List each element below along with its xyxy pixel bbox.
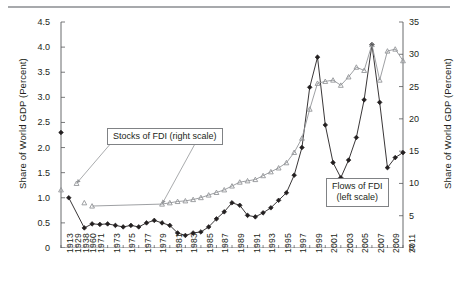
right-axis-tick-label: 25 [409,82,435,92]
data-point-marker [59,130,64,135]
data-point-marker [82,226,87,231]
data-point-marker [144,221,149,226]
data-point-marker [354,135,359,140]
left-axis-tick-label: 0.5 [24,218,50,228]
data-point-marker [261,211,266,216]
data-point-marker [253,215,258,220]
right-axis-tick-label: 10 [409,178,435,188]
data-point-marker [199,230,204,235]
left-axis-tick-label: 3.0 [24,92,50,102]
annotation-leader-line [77,142,112,183]
data-point-marker [323,123,328,128]
data-point-marker [160,221,165,226]
data-point-marker [307,85,312,90]
data-point-marker [315,55,320,60]
left-axis-tick-label: 1.5 [24,168,50,178]
right-axis-tick-label: 5 [409,211,435,221]
data-point-marker [129,223,134,228]
data-point-marker [66,195,71,200]
data-point-marker [362,98,367,103]
left-axis-tick-label: 4.0 [24,42,50,52]
right-axis-tick-label: 20 [409,114,435,124]
left-axis-tick-label: 0 [24,243,50,253]
data-point-marker [90,222,95,227]
data-point-marker [121,225,126,230]
data-point-marker [105,222,110,227]
figure-chart-fdi: Share of World GDP (Percent) Share of Wo… [0,0,458,294]
data-point-marker [98,222,103,227]
annotation-stocks-of-fdi: Stocks of FDI (right scale) [107,128,223,145]
data-point-marker [191,231,196,236]
data-point-marker [136,225,141,230]
data-point-marker [300,145,305,150]
data-point-marker [82,200,87,204]
data-point-marker [152,218,157,223]
annotation-flows-line2: (left scale) [332,192,383,203]
left-axis-tick-label: 4.5 [24,17,50,27]
left-axis-tick-label: 2.5 [24,117,50,127]
right-axis-title: Share of World GDP (Percent) [442,49,453,199]
data-point-marker [377,100,382,105]
top-divider-rule [8,6,450,8]
annotation-flows-line1: Flows of FDI [332,181,383,192]
left-axis-tick-label: 2.0 [24,143,50,153]
data-point-marker [183,233,188,238]
right-axis-tick-label: 35 [409,17,435,27]
data-point-marker [331,160,336,165]
right-axis-tick-label: 30 [409,49,435,59]
data-point-marker [346,158,351,163]
data-point-marker [292,173,297,178]
right-axis-tick-label: 15 [409,146,435,156]
left-axis-tick-label: 3.5 [24,67,50,77]
data-point-marker [113,223,118,228]
left-axis-tick-label: 1.0 [24,193,50,203]
annotation-leader-line [162,142,196,204]
annotation-flows-of-fdi: Flows of FDI (left scale) [326,178,389,207]
